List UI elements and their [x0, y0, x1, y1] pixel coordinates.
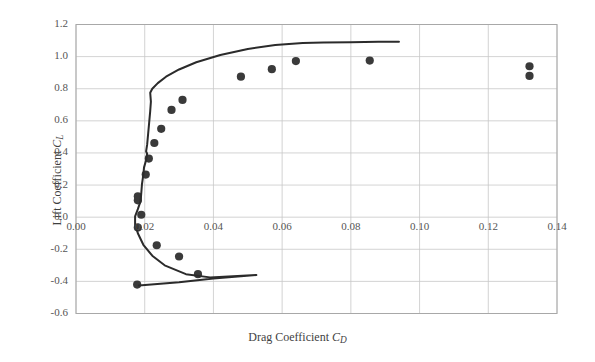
series-markers-0 — [133, 57, 534, 289]
data-point — [157, 125, 165, 133]
y-tick-label: 0.2 — [22, 178, 68, 190]
x-tick-label: 0.08 — [326, 220, 376, 232]
x-tick-label: 0.04 — [188, 220, 238, 232]
data-point — [366, 57, 374, 65]
data-point — [525, 72, 533, 80]
series-line-1 — [135, 42, 399, 286]
x-tick-label: 0.10 — [395, 220, 445, 232]
gridlines — [76, 25, 557, 314]
y-tick-label: 0.8 — [22, 81, 68, 93]
y-tick-label: -0.4 — [22, 274, 68, 286]
data-point — [237, 73, 245, 81]
data-point — [268, 65, 276, 73]
x-tick-label: 0.14 — [532, 220, 582, 232]
y-tick-label: 0.4 — [22, 145, 68, 157]
data-point — [150, 139, 158, 147]
x-axis-title: Drag Coefficient CD — [0, 330, 595, 345]
y-axis-subscript: L — [55, 135, 65, 140]
data-point — [292, 57, 300, 65]
y-tick-label: 1.2 — [22, 17, 68, 29]
plot-frame — [76, 25, 557, 314]
y-tick-label: -0.2 — [22, 242, 68, 254]
x-tick-label: 0.12 — [463, 220, 513, 232]
y-tick-label: 1.0 — [22, 49, 68, 61]
data-point — [137, 211, 145, 219]
x-axis-subscript: D — [340, 335, 347, 345]
x-tick-label: 0.02 — [120, 220, 170, 232]
x-tick-label: 0.00 — [51, 220, 101, 232]
data-point — [525, 62, 533, 70]
x-axis-symbol: C — [332, 330, 340, 344]
data-point — [178, 96, 186, 104]
y-tick-label: -0.6 — [22, 306, 68, 318]
data-point — [153, 241, 161, 249]
data-point — [167, 106, 175, 114]
data-point — [175, 252, 183, 260]
x-axis-title-text: Drag Coefficient — [248, 330, 332, 344]
plot-area — [0, 0, 595, 362]
drag-polar-chart: Lift Coefficient CL Drag Coefficient CD … — [0, 0, 595, 362]
x-tick-label: 0.06 — [257, 220, 307, 232]
y-tick-label: 0.6 — [22, 113, 68, 125]
